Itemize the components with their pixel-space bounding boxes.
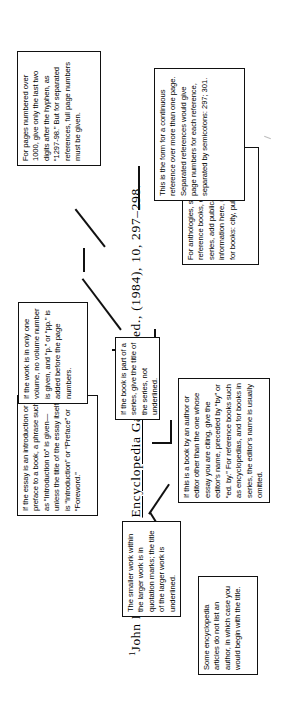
callout-editor-name: If this is a book by an author or editor… [178,378,270,503]
leader-line-publication-info-h [83,248,85,272]
callout-no-author: Some encyclopedia articles do not list a… [198,576,258,675]
leader-line-continuous-reference [75,209,106,248]
leader-line-pages-over-1000 [138,166,140,210]
leader-line-introduction [148,484,169,515]
citation-superscript: 1 [127,652,137,657]
callout-pages-over-1000: For pages numbered over 1000, give only … [17,51,101,166]
callout-single-volume: If the work is in only one volume, no vo… [18,302,88,404]
leader-line-book-series [170,420,172,444]
leader-line-book-series-vertical [152,442,172,444]
callout-book-in-series: If the book is part of a series, give th… [115,337,160,420]
callout-quotation-marks-and-underlining: The smaller work within the larger work … [122,521,181,617]
callout-continuous-reference: This is the form for a continuous refere… [154,68,245,201]
citation-pages: 297–298. [128,184,143,240]
callout-introduction-or-preface: If the essay is an introduction or prefa… [17,395,98,516]
rotated-diagram-stage: 1John Doe, "Mirages," Encyclopedia Galac… [0,0,283,702]
diagram-canvas: 1John Doe, "Mirages," Encyclopedia Galac… [0,0,283,702]
citation-year: (1984), [128,267,143,311]
scan-artifact-speck [264,136,271,139]
citation-volume: 10, [128,244,143,263]
